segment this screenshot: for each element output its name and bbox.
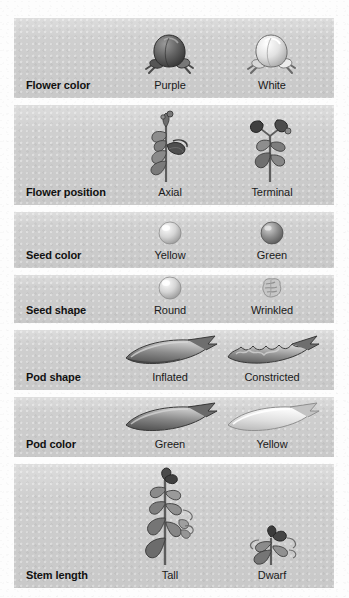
- seed-green-icon: [259, 220, 285, 246]
- pod-yellow-icon: [224, 401, 320, 435]
- phenotype-dominant: Axial: [158, 186, 182, 198]
- trait-row: Flower positionAxialTerminal: [14, 105, 334, 205]
- trait-row: Flower colorPurpleWhite: [14, 18, 334, 98]
- phenotype-label: Constricted: [244, 371, 299, 383]
- flower-white-icon: [246, 32, 298, 76]
- plant-axial-icon: [139, 109, 201, 183]
- phenotype-label: Round: [154, 304, 186, 316]
- pod-inflated-icon: [122, 334, 218, 368]
- plant-dwarf-icon: [241, 520, 303, 566]
- phenotype-recessive: Constricted: [244, 371, 299, 383]
- plant-tall-icon: [135, 466, 205, 566]
- phenotype-label: Purple: [154, 79, 186, 91]
- phenotype-label: Yellow: [256, 438, 287, 450]
- phenotype-dominant: Round: [154, 304, 186, 316]
- trait-row: Pod colorGreenYellow: [14, 397, 334, 457]
- phenotype-label: Wrinkled: [251, 304, 293, 316]
- phenotype-label: Tall: [162, 569, 178, 581]
- trait-row: Stem lengthTallDwarf: [14, 464, 334, 588]
- phenotype-recessive: Wrinkled: [251, 304, 293, 316]
- phenotype-label: Axial: [158, 186, 182, 198]
- phenotype-dominant: Yellow: [154, 249, 185, 261]
- phenotype-recessive: Dwarf: [258, 569, 286, 581]
- phenotype-recessive: Terminal: [251, 186, 292, 198]
- phenotype-label: Yellow: [154, 249, 185, 261]
- trait-row: Pod shapeInflatedConstricted: [14, 330, 334, 390]
- trait-name-label: Pod color: [26, 438, 76, 450]
- phenotype-label: Terminal: [251, 186, 292, 198]
- phenotype-recessive: Green: [257, 249, 287, 261]
- phenotype-label: Inflated: [152, 371, 188, 383]
- trait-name-label: Seed shape: [26, 304, 86, 316]
- trait-name-label: Stem length: [26, 569, 88, 581]
- phenotype-label: Dwarf: [258, 569, 286, 581]
- seed-wrinkled-icon: [259, 275, 285, 301]
- figure-sheet: Flower colorPurpleWhiteFlower positionAx…: [0, 0, 349, 598]
- trait-name-label: Flower position: [26, 186, 106, 198]
- phenotype-label: White: [258, 79, 286, 91]
- seed-yellow-icon: [157, 220, 183, 246]
- trait-row: Seed colorYellowGreen: [14, 212, 334, 268]
- phenotype-label: Green: [257, 249, 287, 261]
- trait-name-label: Flower color: [26, 79, 90, 91]
- phenotype-recessive: White: [258, 79, 286, 91]
- trait-name-label: Seed color: [26, 249, 81, 261]
- phenotype-dominant: Purple: [154, 79, 186, 91]
- phenotype-dominant: Tall: [162, 569, 178, 581]
- phenotype-recessive: Yellow: [256, 438, 287, 450]
- trait-row: Seed shapeRoundWrinkled: [14, 275, 334, 323]
- seed-round-icon: [157, 275, 183, 301]
- pod-green-icon: [122, 401, 218, 435]
- phenotype-dominant: Inflated: [152, 371, 188, 383]
- phenotype-dominant: Green: [155, 438, 185, 450]
- pod-constricted-icon: [224, 334, 320, 368]
- phenotype-label: Green: [155, 438, 185, 450]
- pea-trait-table: Flower colorPurpleWhiteFlower positionAx…: [14, 18, 334, 595]
- flower-purple-icon: [144, 32, 196, 76]
- trait-name-label: Pod shape: [26, 371, 81, 383]
- plant-terminal-icon: [243, 115, 301, 183]
